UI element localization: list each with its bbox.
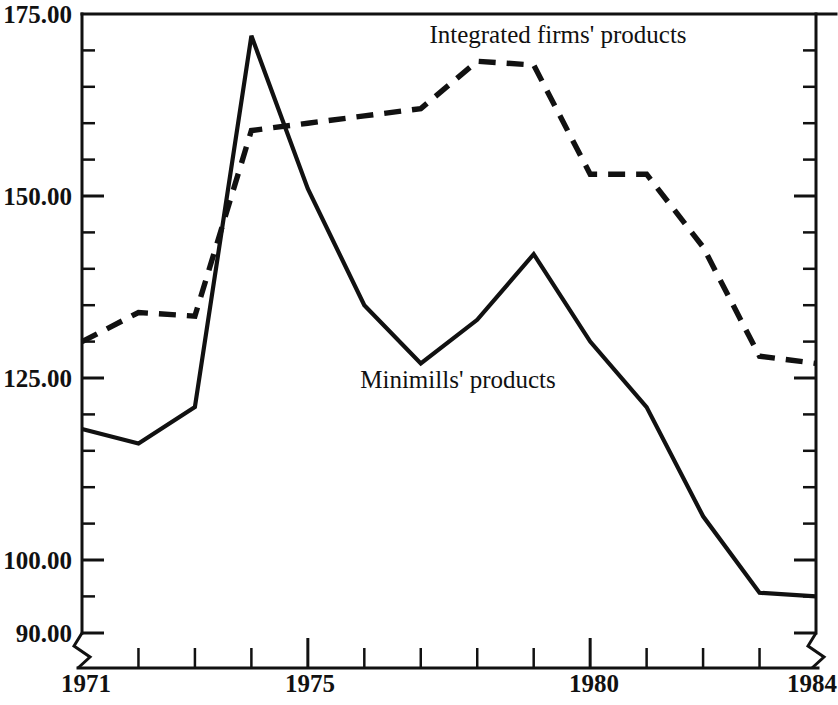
x-axis-tick-labels: 1971 1975 1980 1984 [61,670,838,697]
y-tick-label-150: 150.00 [3,183,72,210]
line-chart: 175.00 150.00 125.00 100.00 90.00 1971 1… [0,0,838,705]
y-tick-label-100: 100.00 [3,547,72,574]
y-axis-minor-ticks [82,50,816,596]
x-tick-label-1971: 1971 [61,670,111,697]
y-axis-break-mark-left [74,633,90,668]
y-axis-break-mark-right [808,633,824,668]
x-tick-label-1984: 1984 [787,670,838,697]
series-line-integrated-firms [82,61,816,363]
y-tick-label-125: 125.00 [3,365,72,392]
y-axis-major-ticks [82,196,816,633]
chart-page: 175.00 150.00 125.00 100.00 90.00 1971 1… [0,0,838,705]
y-tick-label-175: 175.00 [3,1,72,28]
y-tick-label-90: 90.00 [16,620,72,647]
series-annotation-integrated: Integrated firms' products [429,21,686,48]
series-annotation-minimills: Minimills' products [360,366,555,393]
x-tick-label-1980: 1980 [569,670,619,697]
y-axis-tick-labels: 175.00 150.00 125.00 100.00 90.00 [3,1,72,647]
x-axis-ticks [138,638,759,668]
x-tick-label-1975: 1975 [285,670,335,697]
